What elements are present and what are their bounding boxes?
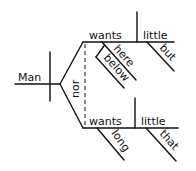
modifier-that: that (157, 127, 182, 153)
modifier-long: long (109, 127, 133, 154)
lower-object: little (141, 115, 166, 128)
modifier-but: but (157, 41, 179, 64)
sentence-diagram: Man nor wants little here below but want… (0, 0, 196, 171)
upper-fork-line (60, 42, 83, 84)
diagram-svg: Man nor wants little here below but want… (0, 0, 196, 171)
subject-word: Man (18, 71, 41, 84)
conjunction-word: nor (69, 79, 82, 98)
below-connector-line (96, 46, 104, 57)
upper-verb: wants (89, 29, 122, 42)
upper-object: little (143, 29, 168, 42)
lower-verb: wants (89, 115, 122, 128)
